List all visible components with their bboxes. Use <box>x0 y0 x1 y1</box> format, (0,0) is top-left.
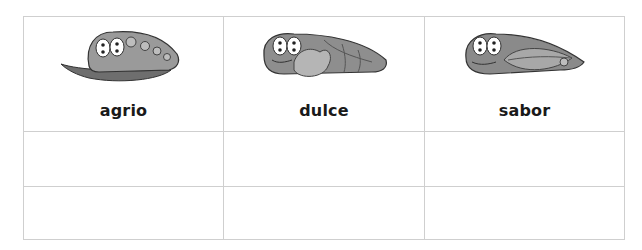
header-cell-sabor: sabor <box>425 17 624 132</box>
answer-cell[interactable] <box>224 187 425 239</box>
column-label: dulce <box>224 101 424 120</box>
answer-cell[interactable] <box>24 132 224 187</box>
caterpillar-candy-icon <box>224 25 424 87</box>
answer-cell[interactable] <box>24 187 224 239</box>
header-cell-dulce: dulce <box>224 17 425 132</box>
worksheet-table: agrio dulce <box>23 16 625 240</box>
answer-cell[interactable] <box>224 132 425 187</box>
column-label: agrio <box>24 101 223 120</box>
caterpillar-pepper-icon <box>24 25 223 87</box>
answer-cell[interactable] <box>425 132 624 187</box>
header-cell-agrio: agrio <box>24 17 224 132</box>
caterpillar-leaf-icon <box>425 25 624 87</box>
column-label: sabor <box>425 101 624 120</box>
answer-cell[interactable] <box>425 187 624 239</box>
